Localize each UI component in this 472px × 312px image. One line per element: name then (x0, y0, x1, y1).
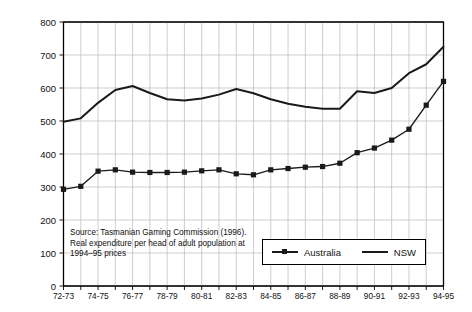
series-marker-australia-81-82 (216, 167, 221, 172)
legend-swatch-australia-icon (272, 247, 298, 257)
legend-label: Australia (304, 247, 341, 258)
series-marker-australia-75-76 (113, 167, 118, 172)
series-marker-australia-77-78 (147, 170, 152, 175)
legend-item-nsw[interactable]: NSW (362, 247, 416, 258)
source-note-line-3: 1994–95 prices (70, 249, 246, 260)
series-marker-australia-83-84 (251, 172, 256, 177)
source-note: Source: Tasmanian Gaming Commission (199… (70, 228, 246, 260)
series-marker-australia-91-92 (389, 138, 394, 143)
legend-line (362, 251, 388, 253)
chart-container: Real per capita expenditure, $A p.a. 010… (0, 0, 472, 312)
legend-swatch-nsw-icon (362, 247, 388, 257)
series-marker-australia-90-91 (372, 145, 377, 150)
series-marker-australia-74-75 (95, 169, 100, 174)
chart-legend: AustraliaNSW (262, 239, 426, 265)
source-note-line-1: Source: Tasmanian Gaming Commission (199… (70, 228, 246, 239)
series-marker-australia-88-89 (337, 161, 342, 166)
series-marker-australia-79-80 (182, 170, 187, 175)
series-marker-australia-92-93 (406, 127, 411, 132)
series-marker-australia-94-95 (441, 79, 446, 84)
plot-area (0, 0, 472, 312)
series-marker-australia-82-83 (234, 171, 239, 176)
series-marker-australia-87-88 (320, 164, 325, 169)
series-marker-australia-76-77 (130, 170, 135, 175)
series-marker-australia-93-94 (424, 103, 429, 108)
series-marker-australia-84-85 (268, 167, 273, 172)
legend-marker-square-icon (282, 249, 287, 254)
series-marker-australia-72-73 (61, 187, 66, 192)
legend-item-australia[interactable]: Australia (272, 247, 341, 258)
series-marker-australia-86-87 (303, 165, 308, 170)
series-marker-australia-89-90 (355, 150, 360, 155)
series-marker-australia-85-86 (285, 166, 290, 171)
series-marker-australia-73-74 (78, 184, 83, 189)
series-marker-australia-80-81 (199, 168, 204, 173)
source-note-line-2: Real expenditure per head of adult popul… (70, 239, 246, 250)
legend-label: NSW (394, 247, 416, 258)
series-marker-australia-78-79 (165, 170, 170, 175)
